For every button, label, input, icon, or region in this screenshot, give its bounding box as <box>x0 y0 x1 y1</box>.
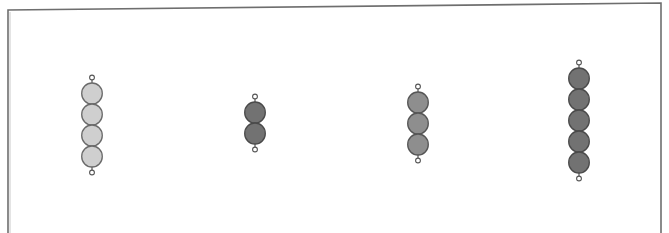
bead-icon <box>245 102 266 123</box>
diagram-svg <box>0 0 669 233</box>
bead-string-3 <box>408 84 429 163</box>
bottom-loop-icon <box>90 170 95 175</box>
bead-icon <box>245 123 266 144</box>
top-loop-icon <box>90 75 95 80</box>
top-loop-icon <box>416 84 421 89</box>
bead-icon <box>569 110 590 131</box>
bottom-loop-icon <box>577 176 582 181</box>
bead-string-1 <box>82 75 103 175</box>
frame-border <box>8 3 661 233</box>
bead-icon <box>569 89 590 110</box>
bead-icon <box>82 104 103 125</box>
top-loop-icon <box>577 60 582 65</box>
bottom-loop-icon <box>416 158 421 163</box>
bead-icon <box>82 146 103 167</box>
bead-icon <box>82 125 103 146</box>
bead-icon <box>408 134 429 155</box>
bead-icon <box>569 131 590 152</box>
top-loop-icon <box>253 94 258 99</box>
bottom-loop-icon <box>253 147 258 152</box>
bead-diagram <box>0 0 669 233</box>
bead-strings <box>82 60 590 181</box>
bead-string-2 <box>245 94 266 152</box>
bead-icon <box>82 83 103 104</box>
bead-icon <box>569 152 590 173</box>
bead-icon <box>569 68 590 89</box>
bead-icon <box>408 92 429 113</box>
bead-icon <box>408 113 429 134</box>
bead-string-4 <box>569 60 590 181</box>
